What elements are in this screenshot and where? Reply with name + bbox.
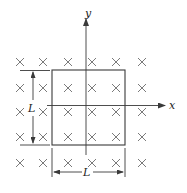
magnetic-field-marks — [16, 58, 146, 167]
field-row-5 — [16, 159, 146, 167]
field-row-2 — [16, 84, 146, 92]
diagram-canvas: y x L L — [0, 0, 187, 193]
field-row-4 — [16, 133, 146, 141]
vertical-length-label: L — [27, 102, 35, 115]
x-axis-label: x — [169, 99, 176, 112]
field-row-1 — [16, 58, 146, 66]
field-row-3 — [16, 108, 146, 116]
magnetic-field-diagram: y x L L — [0, 0, 187, 193]
horizontal-length-label: L — [82, 166, 90, 179]
y-axis-label: y — [84, 7, 92, 20]
